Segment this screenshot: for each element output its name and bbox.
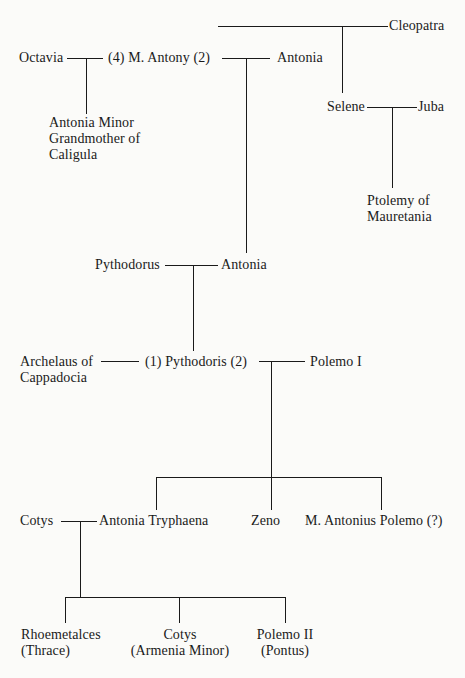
child-line-polemo-ii bbox=[285, 597, 286, 623]
person-cleopatra: Cleopatra bbox=[389, 18, 444, 34]
sibling-line-cotys-children bbox=[65, 597, 286, 598]
person-pythodoris: (1) Pythodoris (2) bbox=[145, 354, 247, 370]
person-polemo-ii: Polemo II (Pontus) bbox=[252, 627, 318, 659]
descent-line-antonia-minor bbox=[86, 58, 87, 114]
person-ptolemy-of-mauretania: Ptolemy of Mauretania bbox=[367, 193, 432, 225]
person-m-antony: (4) M. Antony (2) bbox=[108, 50, 210, 66]
descent-line-selene bbox=[342, 26, 343, 93]
person-polemo-i: Polemo I bbox=[310, 354, 362, 370]
marriage-line-pythodoris-polemo bbox=[259, 361, 305, 362]
person-antonia-minor: Antonia Minor Grandmother of Caligula bbox=[49, 115, 140, 163]
child-line-antonius-polemo bbox=[381, 477, 382, 510]
descent-line-cotys-children bbox=[80, 521, 81, 598]
descent-line-antonia bbox=[246, 58, 247, 253]
person-rhoemetalces: Rhoemetalces (Thrace) bbox=[21, 627, 101, 659]
descent-line-pythodoris bbox=[193, 265, 194, 351]
marriage-line-antony-cleopatra bbox=[218, 26, 388, 27]
marriage-line-octavia-antony bbox=[67, 58, 103, 59]
descent-line-ptolemy bbox=[392, 107, 393, 188]
sibling-line-pythodoris-children bbox=[156, 477, 382, 478]
child-line-antonia-tryphaena bbox=[156, 477, 157, 510]
child-line-rhoemetalces bbox=[65, 597, 66, 623]
person-antonia-tryphaena: Antonia Tryphaena bbox=[99, 513, 208, 529]
person-antonia-daughter: Antonia bbox=[221, 257, 267, 273]
marriage-line-archelaus-pythodoris bbox=[101, 361, 139, 362]
person-juba: Juba bbox=[418, 99, 444, 115]
person-antonia: Antonia bbox=[277, 50, 323, 66]
family-tree-diagram: Cleopatra Octavia (4) M. Antony (2) Anto… bbox=[0, 0, 465, 678]
descent-line-pythodoris-children bbox=[271, 361, 272, 478]
person-zeno: Zeno bbox=[251, 513, 280, 529]
child-line-cotys-son bbox=[179, 597, 180, 623]
person-m-antonius-polemo: M. Antonius Polemo (?) bbox=[305, 513, 443, 529]
person-cotys: Cotys bbox=[20, 513, 53, 529]
marriage-line-pythodorus-antonia bbox=[165, 265, 218, 266]
marriage-line-cotys-tryphaena bbox=[61, 521, 97, 522]
person-octavia: Octavia bbox=[19, 50, 63, 66]
person-cotys-armenia-minor: Cotys (Armenia Minor) bbox=[128, 627, 232, 659]
person-archelaus-of-cappadocia: Archelaus of Cappadocia bbox=[20, 354, 93, 386]
person-pythodorus: Pythodorus bbox=[95, 257, 160, 273]
child-line-zeno bbox=[271, 477, 272, 510]
person-selene: Selene bbox=[327, 99, 365, 115]
